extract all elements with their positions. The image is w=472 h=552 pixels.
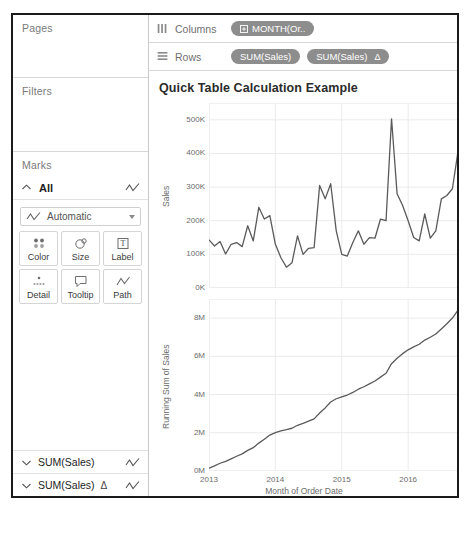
y-tick-label: 100K bbox=[163, 249, 205, 258]
x-tick-label: 2014 bbox=[259, 475, 291, 484]
pill-label: SUM(Sales) bbox=[316, 51, 367, 62]
mark-type-value: Automatic bbox=[47, 211, 129, 222]
plus-box-icon bbox=[240, 25, 248, 33]
x-tick-label: 2013 bbox=[193, 475, 225, 484]
marks-all-row[interactable]: All bbox=[13, 176, 148, 200]
tableau-worksheet: Pages Filters Marks All Automatic bbox=[11, 13, 459, 498]
pill-sum-sales-delta[interactable]: SUM(Sales) Δ bbox=[307, 49, 389, 64]
chart-running-sum: Running Sum of Sales 0M2M4M6M8M 20132014… bbox=[149, 299, 457, 489]
marks-card-label: Marks bbox=[13, 152, 148, 171]
table-calculation-icon: Δ bbox=[101, 480, 108, 491]
columns-shelf[interactable]: Columns MONTH(Or.. bbox=[149, 15, 457, 43]
marks-path-label: Path bbox=[113, 291, 132, 300]
pill-label: MONTH(Or.. bbox=[252, 23, 305, 34]
mark-type-dropdown[interactable]: Automatic bbox=[20, 207, 141, 226]
marks-detail-button[interactable]: Detail bbox=[19, 269, 58, 304]
label-text-icon: T bbox=[115, 235, 131, 251]
filters-shelf-label: Filters bbox=[13, 78, 148, 97]
line-mark-icon bbox=[125, 182, 140, 193]
y-tick-label: 300K bbox=[163, 182, 205, 191]
pages-shelf-label: Pages bbox=[13, 15, 148, 34]
path-line-icon bbox=[115, 273, 131, 289]
y-tick-label: 0M bbox=[163, 466, 205, 475]
tooltip-bubble-icon bbox=[73, 273, 89, 289]
size-circles-icon bbox=[73, 235, 89, 251]
marks-label-label: Label bbox=[111, 253, 133, 262]
pill-sum-sales[interactable]: SUM(Sales) bbox=[231, 49, 300, 64]
left-shelf-panel: Pages Filters Marks All Automatic bbox=[13, 15, 149, 496]
pill-label: SUM(Sales) bbox=[240, 51, 291, 62]
pages-shelf[interactable]: Pages bbox=[13, 15, 148, 78]
running-sum-line-plot bbox=[209, 299, 457, 471]
marks-color-label: Color bbox=[28, 253, 50, 262]
sales-line-plot bbox=[209, 103, 457, 288]
x-axis-title: Month of Order Date bbox=[169, 486, 439, 496]
marks-card-label: SUM(Sales) bbox=[38, 479, 95, 491]
marks-path-button[interactable]: Path bbox=[103, 269, 142, 304]
line-mark-icon bbox=[125, 480, 140, 491]
table-calculation-icon: Δ bbox=[374, 52, 380, 62]
y-tick-label: 400K bbox=[163, 148, 205, 157]
marks-card-sum-sales[interactable]: SUM(Sales) bbox=[13, 450, 148, 473]
columns-icon bbox=[157, 23, 168, 34]
marks-size-label: Size bbox=[72, 253, 90, 262]
marks-tooltip-button[interactable]: Tooltip bbox=[61, 269, 100, 304]
worksheet-right-panel: Columns MONTH(Or.. Rows bbox=[149, 15, 457, 496]
marks-color-button[interactable]: Color bbox=[19, 231, 58, 266]
line-mark-icon bbox=[125, 457, 140, 468]
view-title: Quick Table Calculation Example bbox=[149, 71, 457, 95]
y-tick-label: 200K bbox=[163, 216, 205, 225]
line-mark-icon bbox=[26, 211, 41, 222]
x-tick-label: 2016 bbox=[392, 475, 424, 484]
marks-label-button[interactable]: T Label bbox=[103, 231, 142, 266]
pill-month-order-date[interactable]: MONTH(Or.. bbox=[231, 21, 314, 36]
color-dots-icon bbox=[31, 235, 47, 251]
x-tick-label: 2017 bbox=[453, 475, 457, 484]
marks-card-sum-sales-delta[interactable]: SUM(Sales) Δ bbox=[13, 473, 148, 496]
rows-shelf-label: Rows bbox=[175, 51, 231, 63]
view-canvas: Quick Table Calculation Example Sales 0K… bbox=[149, 71, 457, 496]
marks-detail-label: Detail bbox=[27, 291, 50, 300]
rows-icon bbox=[157, 51, 168, 62]
chevron-down-icon bbox=[21, 480, 32, 491]
chart-sales: Sales 0K100K200K300K400K500K bbox=[149, 101, 457, 299]
y-tick-label: 8M bbox=[163, 313, 205, 322]
x-tick-label: 2015 bbox=[326, 475, 358, 484]
svg-text:T: T bbox=[120, 239, 125, 248]
chevron-down-icon bbox=[21, 457, 32, 468]
chevron-down-icon bbox=[129, 215, 135, 219]
y-tick-label: 2M bbox=[163, 428, 205, 437]
filters-shelf[interactable]: Filters bbox=[13, 78, 148, 152]
y-tick-label: 4M bbox=[163, 390, 205, 399]
marks-buttons: Color Size T Label bbox=[13, 231, 148, 308]
y-tick-label: 0K bbox=[163, 283, 205, 292]
marks-size-button[interactable]: Size bbox=[61, 231, 100, 266]
y-tick-label: 500K bbox=[163, 115, 205, 124]
marks-card-label: SUM(Sales) bbox=[38, 456, 95, 468]
chevron-up-icon bbox=[21, 182, 32, 193]
detail-dots-icon bbox=[31, 273, 47, 289]
rows-shelf[interactable]: Rows SUM(Sales) SUM(Sales) Δ bbox=[149, 43, 457, 71]
marks-tooltip-label: Tooltip bbox=[67, 291, 93, 300]
y-tick-label: 6M bbox=[163, 351, 205, 360]
chart-stack: Sales 0K100K200K300K400K500K Running Sum… bbox=[149, 101, 457, 496]
marks-card: Marks bbox=[13, 152, 148, 176]
marks-all-label: All bbox=[39, 182, 125, 194]
columns-shelf-label: Columns bbox=[175, 23, 231, 35]
